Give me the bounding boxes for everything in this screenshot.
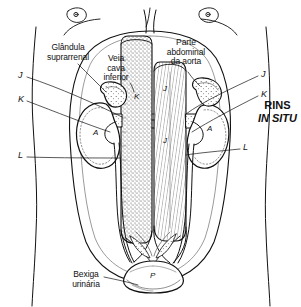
key-aorta-upper: J (163, 84, 167, 93)
key-vena-cava: K (134, 92, 139, 101)
figure-title-line1: RINS (258, 99, 297, 112)
key-left-l: L (18, 150, 23, 160)
label-abdominal-aorta: Parte abdominal da aorta (155, 38, 217, 67)
key-aorta-lower: J (163, 136, 167, 145)
key-left-k: K (18, 94, 24, 104)
key-right-j: J (261, 69, 266, 79)
label-urinary-bladder: Bexiga urinária (62, 270, 110, 289)
adrenal-gland-right (193, 78, 222, 106)
key-right-k: K (261, 89, 267, 99)
body-outline-right (265, 27, 270, 306)
key-kidney-left: A (93, 128, 98, 137)
figure-title: RINS IN SITU (258, 99, 297, 125)
body-outline-left (32, 27, 37, 306)
key-bladder: P (150, 271, 155, 280)
anatomical-figure-kidneys-in-situ: Glândula suprarrenal Veia cava inferior … (0, 0, 301, 307)
figure-title-line2: IN SITU (258, 112, 297, 125)
key-kidney-right: A (207, 124, 212, 133)
abdominal-aorta (154, 62, 186, 241)
label-vena-cava: Veia cava inferior (94, 54, 138, 83)
key-left-j: J (18, 70, 23, 80)
key-right-l: L (243, 142, 248, 152)
nipple-left (67, 8, 87, 23)
